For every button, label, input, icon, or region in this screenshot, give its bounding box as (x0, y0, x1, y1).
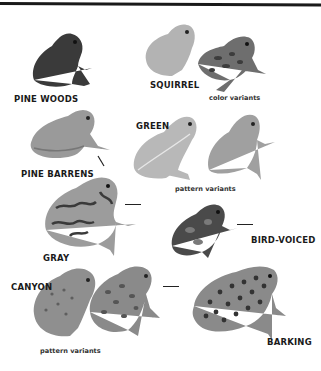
note-squirrel-color-variants: color variants (209, 94, 260, 102)
pine-barrens-frog-illustration (28, 106, 120, 168)
green-frog-dark-illustration (203, 110, 283, 182)
canyon-frog-right-illustration (86, 262, 166, 342)
label-gray: GRAY (43, 253, 69, 263)
label-canyon: CANYON (11, 282, 52, 292)
label-pine-woods: PINE WOODS (14, 94, 78, 104)
pine-woods-frog-illustration (28, 28, 98, 94)
label-squirrel: SQUIRREL (150, 80, 199, 90)
squirrel-frog-dark-illustration (194, 30, 270, 94)
label-green: GREEN (136, 121, 169, 131)
note-green-pattern-variants: pattern variants (175, 185, 236, 193)
label-bird-voiced: BIRD-VOICED (251, 235, 315, 245)
bird-voiced-pointer-arrow (237, 224, 253, 225)
canyon-pointer-arrow (163, 286, 179, 287)
gray-frog-illustration (40, 174, 148, 260)
bird-voiced-frog-illustration (168, 200, 242, 262)
green-frog-light-illustration (130, 108, 210, 182)
label-barking: BARKING (267, 337, 312, 347)
top-rule (0, 2, 321, 6)
barking-frog-illustration (186, 262, 290, 348)
gray-pointer-arrow (125, 204, 141, 205)
note-canyon-pattern-variants: pattern variants (40, 347, 101, 355)
